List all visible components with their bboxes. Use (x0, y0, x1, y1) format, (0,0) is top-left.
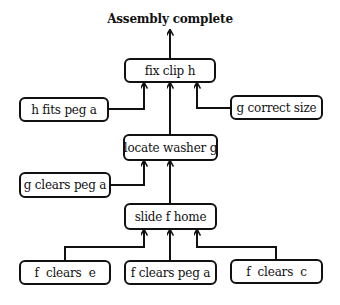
node-h-fits-peg-a: h fits peg a (19, 97, 109, 122)
node-f-clears-c: f clears c (230, 259, 323, 284)
node-label: f clears c (246, 265, 307, 279)
node-label: fix clip h (145, 64, 195, 78)
node-label: f clears peg a (131, 266, 210, 280)
edge-hfits-to-fixclip (109, 83, 144, 109)
node-label: f clears e (34, 266, 95, 280)
node-label: h fits peg a (31, 103, 97, 117)
node-f-clears-peg-a: f clears peg a (124, 260, 217, 285)
node-g-clears-peg-a: g clears peg a (19, 172, 111, 198)
node-locate-washer-g: locate washer g (123, 134, 218, 161)
node-label: g correct size (237, 101, 317, 115)
node-f-clears-e: f clears e (19, 260, 111, 285)
node-slide-f-home: slide f home (124, 203, 217, 230)
node-label: slide f home (135, 210, 207, 224)
node-g-correct-size: g correct size (230, 95, 323, 120)
edge-fclearse-to-slidehome (65, 230, 144, 260)
node-label: g clears peg a (24, 178, 107, 192)
edge-gcorrect-to-fixclip (197, 83, 230, 108)
node-label: locate washer g (124, 141, 217, 155)
node-fix-clip-h: fix clip h (124, 58, 216, 83)
edge-fclearsc-to-slidehome (197, 230, 276, 259)
edge-gclears-to-locatewasher (111, 161, 144, 185)
